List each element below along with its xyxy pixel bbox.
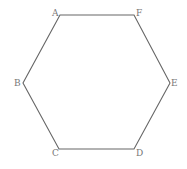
vertex-label-b: B (14, 78, 21, 88)
vertex-label-a: A (51, 8, 59, 18)
hexagon-shape (23, 15, 170, 149)
vertex-label-d: D (136, 148, 143, 158)
vertex-label-f: F (136, 8, 142, 18)
vertex-label-c: C (52, 148, 59, 158)
hexagon-diagram: A B C D E F (0, 0, 187, 169)
vertex-label-e: E (171, 78, 178, 88)
